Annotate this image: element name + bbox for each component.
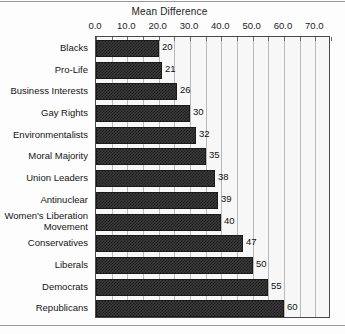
x-tick-label: 70.0: [305, 20, 324, 31]
bar-row: 21: [96, 61, 329, 85]
bar: [96, 214, 221, 231]
bar-value-label: 20: [162, 41, 173, 52]
bar-row: 20: [96, 39, 329, 63]
category-label: Liberals: [0, 259, 88, 270]
bar-chart-figure: Mean Difference 0.010.020.030.040.050.06…: [0, 0, 345, 334]
bar: [96, 127, 196, 144]
bar-row: 55: [96, 278, 329, 302]
bar-value-label: 39: [221, 193, 232, 204]
category-label: Blacks: [0, 42, 88, 53]
x-tick-label: 30.0: [180, 20, 199, 31]
x-tick-label: 50.0: [242, 20, 261, 31]
bar: [96, 279, 268, 296]
chart-title: Mean Difference: [0, 6, 345, 17]
category-label: Women's Liberation Movement: [0, 210, 88, 232]
bar: [96, 83, 177, 100]
x-tick-label: 40.0: [211, 20, 230, 31]
figure-top-rule: [0, 1, 345, 2]
x-axis-tick-labels: 0.010.020.030.040.050.060.070.0: [0, 20, 345, 34]
category-label: Business Interests: [0, 85, 88, 96]
bar-value-label: 35: [209, 149, 220, 160]
bar: [96, 40, 159, 57]
bar-row: 39: [96, 191, 329, 215]
category-label: Republicans: [0, 302, 88, 313]
bar: [96, 192, 218, 209]
figure-bottom-rule: [0, 325, 345, 326]
category-label: Pro-Life: [0, 64, 88, 75]
bar-row: 60: [96, 299, 329, 323]
bar-row: 32: [96, 126, 329, 150]
tickmark: [331, 37, 332, 41]
bar-row: 38: [96, 169, 329, 193]
bar-row: 26: [96, 82, 329, 106]
x-tick-label: 60.0: [274, 20, 293, 31]
bar: [96, 62, 162, 79]
category-label: Democrats: [0, 281, 88, 292]
bar-value-label: 32: [199, 128, 210, 139]
bar-value-label: 26: [180, 84, 191, 95]
bar-row: 35: [96, 147, 329, 171]
category-label: Moral Majority: [0, 150, 88, 161]
bar-value-label: 40: [224, 215, 235, 226]
bar-value-label: 60: [287, 301, 298, 312]
bar-value-label: 47: [246, 236, 257, 247]
x-tick-label: 20.0: [148, 20, 167, 31]
category-label: Antinuclear: [0, 194, 88, 205]
bar-row: 40: [96, 213, 329, 237]
bar-value-label: 50: [256, 258, 267, 269]
bar-value-label: 38: [218, 171, 229, 182]
bar-value-label: 21: [165, 63, 176, 74]
bar: [96, 300, 284, 317]
bar: [96, 170, 215, 187]
x-tick-label: 0.0: [88, 20, 101, 31]
bar-row: 50: [96, 256, 329, 280]
bar-row: 47: [96, 234, 329, 258]
bar: [96, 148, 206, 165]
bar: [96, 235, 243, 252]
chart-title-text: Mean Difference: [131, 6, 207, 17]
bar-row: 30: [96, 104, 329, 128]
category-label: Union Leaders: [0, 172, 88, 183]
bar-series: 20212630323538394047505560: [96, 37, 329, 317]
category-label: Gay Rights: [0, 107, 88, 118]
bar-value-label: 55: [271, 280, 282, 291]
x-tick-label: 10.0: [117, 20, 136, 31]
bar: [96, 257, 253, 274]
bar-value-label: 30: [193, 106, 204, 117]
bar: [96, 105, 190, 122]
plot-area: 20212630323538394047505560: [95, 36, 330, 318]
category-label: Environmentalists: [0, 129, 88, 140]
category-labels: BlacksPro-LifeBusiness InterestsGay Righ…: [0, 36, 92, 318]
category-label: Conservatives: [0, 237, 88, 248]
